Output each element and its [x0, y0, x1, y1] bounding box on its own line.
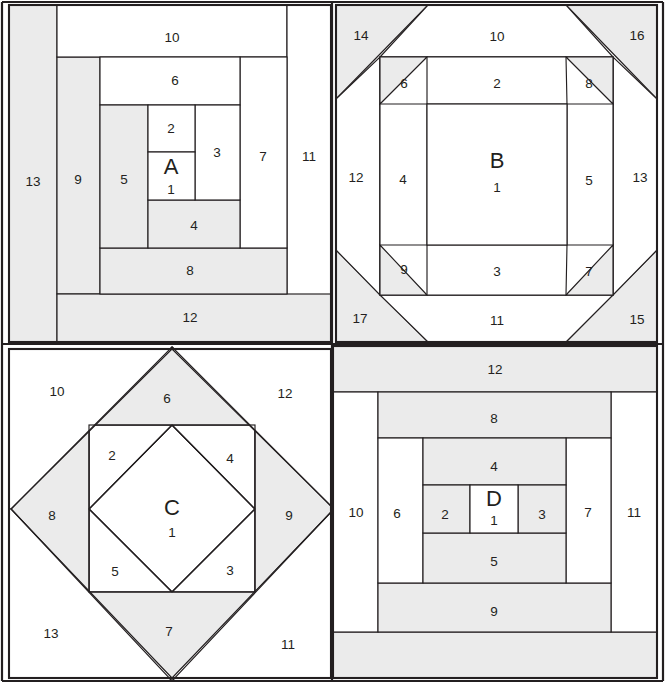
block-a-label-12: 12 [182, 310, 197, 325]
block-b-label-5: 5 [585, 173, 593, 188]
quilt-diagram-root: 13 9 10 11 12 8 7 6 5 4 3 2 A 1 [0, 0, 665, 683]
block-d-label-8: 8 [490, 411, 498, 426]
block-c-label-13: 13 [43, 626, 58, 641]
block-d-label-1: 1 [490, 513, 498, 528]
block-c-label-2: 2 [108, 448, 116, 463]
block-d-piece-13[interactable] [333, 632, 657, 678]
block-d-label-3: 3 [538, 507, 546, 522]
block-a-label-11: 11 [302, 149, 316, 164]
block-a-label-3: 3 [213, 145, 221, 160]
block-d-label-5: 5 [490, 554, 498, 569]
block-a-label-4: 4 [190, 218, 198, 233]
block-d-center-letter: D [486, 486, 502, 511]
block-c-label-9: 9 [285, 508, 293, 523]
block-b-label-13: 13 [632, 170, 647, 185]
block-c-label-8: 8 [48, 508, 56, 523]
block-b-label-1: 1 [493, 180, 501, 195]
block-a-center-letter: A [164, 154, 179, 179]
block-c-label-11: 11 [281, 637, 295, 652]
block-b-label-11: 11 [490, 313, 504, 328]
block-a-label-8: 8 [186, 263, 194, 278]
block-b-label-14: 14 [353, 28, 369, 43]
block-b[interactable]: 14 10 16 6 2 8 12 4 5 13 9 3 7 17 11 15 … [336, 5, 657, 342]
block-a-label-1: 1 [167, 182, 175, 197]
block-d-label-2: 2 [441, 507, 449, 522]
block-a-label-5: 5 [120, 172, 128, 187]
block-d-label-11: 11 [627, 505, 641, 520]
block-b-label-17: 17 [352, 311, 367, 326]
block-b-label-12: 12 [348, 170, 363, 185]
block-c-label-12: 12 [277, 386, 292, 401]
block-b-label-4: 4 [399, 172, 407, 187]
block-b-label-8: 8 [585, 76, 593, 91]
block-b-label-6: 6 [400, 76, 408, 91]
block-b-label-16: 16 [629, 28, 644, 43]
block-a-piece-6[interactable] [100, 57, 240, 105]
block-c-label-10: 10 [49, 384, 64, 399]
block-b-label-9: 9 [400, 262, 408, 277]
block-c[interactable]: 10 6 12 2 4 8 9 5 3 13 7 11 C 1 [9, 347, 334, 681]
block-c-label-4: 4 [226, 451, 234, 466]
block-c-label-7: 7 [165, 624, 173, 639]
block-a-label-10: 10 [164, 30, 179, 45]
block-c-label-6: 6 [163, 391, 171, 406]
block-d-label-7: 7 [584, 505, 592, 520]
block-c-center-letter: C [164, 495, 180, 520]
block-b-label-7: 7 [585, 264, 593, 279]
block-d-label-6: 6 [393, 506, 401, 521]
block-c-label-3: 3 [226, 563, 234, 578]
quilt-block-diagram: 13 9 10 11 12 8 7 6 5 4 3 2 A 1 [0, 0, 665, 683]
block-a-label-13: 13 [25, 174, 40, 189]
block-a-label-6: 6 [171, 73, 179, 88]
block-b-piece-1-center[interactable] [427, 104, 567, 245]
block-a-label-9: 9 [74, 172, 82, 187]
block-d-label-12: 12 [487, 362, 502, 377]
block-a-label-2: 2 [167, 121, 175, 136]
block-b-label-15: 15 [629, 312, 644, 327]
block-d-label-9: 9 [490, 604, 498, 619]
block-b-center-letter: B [490, 148, 505, 173]
block-c-label-1: 1 [168, 525, 176, 540]
block-d-label-4: 4 [490, 459, 498, 474]
block-d[interactable]: 12 8 4 10 6 2 3 7 11 5 9 D 1 [333, 346, 657, 678]
block-b-label-3: 3 [493, 264, 501, 279]
block-b-label-2: 2 [493, 76, 501, 91]
block-d-label-10: 10 [348, 505, 363, 520]
block-a[interactable]: 13 9 10 11 12 8 7 6 5 4 3 2 A 1 [9, 5, 331, 342]
block-c-label-5: 5 [111, 564, 119, 579]
block-b-label-10: 10 [489, 29, 504, 44]
block-a-label-7: 7 [259, 149, 267, 164]
